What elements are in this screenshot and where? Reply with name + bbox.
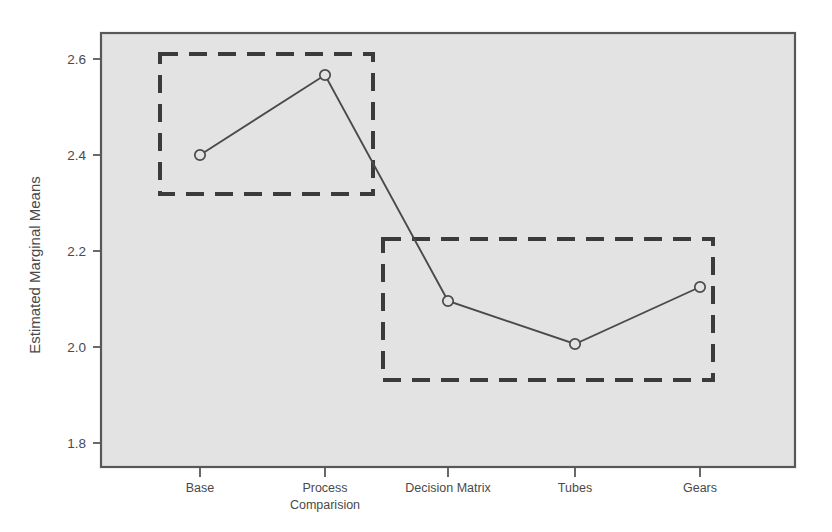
x-tick-label-process: Process (302, 481, 347, 495)
y-tick-label-1-8: 1.8 (67, 436, 86, 451)
estimated-marginal-means-chart: 2.6 2.4 2.2 2.0 1.8 Estimated Marginal M… (0, 0, 832, 532)
y-tick-label-2-2: 2.2 (67, 244, 86, 259)
plot-area-background (101, 33, 795, 467)
y-axis-ticks (93, 59, 101, 443)
x-tick-label-tubes: Tubes (558, 481, 592, 495)
data-point-process-comparision (320, 70, 330, 80)
data-point-gears (695, 282, 705, 292)
y-tick-label-2-6: 2.6 (67, 52, 86, 67)
x-tick-label-decision-matrix: Decision Matrix (405, 481, 491, 495)
y-axis-title: Estimated Marginal Means (26, 176, 43, 354)
y-tick-label-2-0: 2.0 (67, 340, 86, 355)
y-tick-label-2-4: 2.4 (67, 148, 86, 163)
x-axis-ticks (200, 467, 700, 477)
data-point-base (195, 150, 205, 160)
data-point-decision-matrix (443, 296, 453, 306)
data-point-tubes (570, 339, 580, 349)
chart-canvas: 2.6 2.4 2.2 2.0 1.8 Estimated Marginal M… (0, 0, 832, 532)
x-tick-label-comparision: Comparision (290, 498, 360, 512)
x-tick-label-gears: Gears (683, 481, 717, 495)
x-tick-label-base: Base (186, 481, 215, 495)
